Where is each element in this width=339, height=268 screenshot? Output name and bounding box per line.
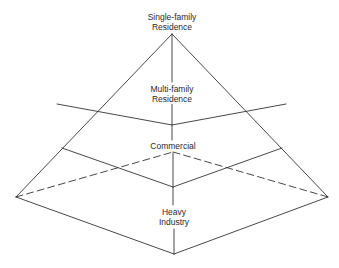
base-back-left-edge-hidden bbox=[16, 152, 173, 197]
pyramid-left-edge bbox=[16, 34, 172, 197]
tier-label-line: Single-family bbox=[148, 12, 197, 22]
tier-label-single-family-residence: Single-family Residence bbox=[147, 12, 198, 32]
land-use-pyramid-diagram: Single-family Residence Multi-family Res… bbox=[0, 0, 339, 268]
tier-label-line: Residence bbox=[148, 22, 197, 32]
base-front-right-edge bbox=[174, 197, 328, 254]
tier-label-commercial: Commercial bbox=[149, 141, 196, 151]
tier-divider-2-left bbox=[62, 148, 173, 187]
pyramid-right-edge bbox=[172, 34, 328, 197]
tier-label-heavy-industry: Heavy Industry bbox=[158, 207, 190, 227]
tier-label-line: Residence bbox=[151, 94, 194, 104]
tier-label-line: Heavy bbox=[159, 207, 189, 217]
tier-label-line: Industry bbox=[159, 217, 189, 227]
tier-divider-2-right bbox=[173, 148, 282, 187]
pyramid-drawing bbox=[0, 0, 339, 268]
tier-label-line: Multi-family bbox=[151, 84, 194, 94]
base-back-right-edge-hidden bbox=[173, 152, 328, 197]
tier-label-multi-family-residence: Multi-family Residence bbox=[150, 84, 195, 104]
tier-divider-1-left bbox=[57, 104, 172, 125]
base-front-left-edge bbox=[16, 197, 174, 254]
tier-label-line: Commercial bbox=[150, 141, 195, 151]
tier-divider-1-right bbox=[172, 104, 286, 125]
